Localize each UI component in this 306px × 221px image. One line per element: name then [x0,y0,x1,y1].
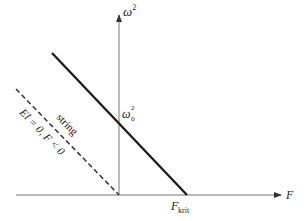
svg-text:2: 2 [131,104,135,112]
svg-text:ω: ω [122,107,130,121]
y-axis-label: ω2 [123,3,136,19]
svg-text:0: 0 [131,115,135,123]
svg-text:krit: krit [178,206,190,215]
x-axis-label: F [285,188,294,202]
critical-force-label: F krit [170,199,190,215]
string-label: string [55,111,81,138]
intercept-label: ω 0 2 [122,104,135,123]
string-dashed-line [16,89,119,195]
frequency-vs-force-diagram: ω2 F ω 0 2 F krit string EI = 0, F < 0 [0,0,306,221]
